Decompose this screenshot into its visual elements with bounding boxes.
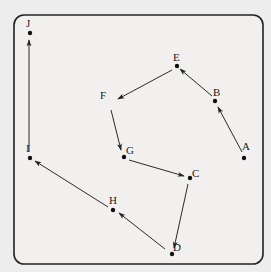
node-label: J [26, 17, 31, 29]
node-f: F [100, 89, 106, 101]
node-dot [175, 64, 179, 68]
node-label: D [173, 241, 181, 253]
node-dot [213, 99, 217, 103]
node-label: E [173, 51, 180, 63]
node-label: C [192, 167, 199, 179]
node-dot [242, 156, 246, 160]
node-label: F [100, 89, 106, 101]
node-dot [111, 208, 115, 212]
node-label: H [109, 194, 117, 206]
path-diagram: ABEFGCDHIJ [0, 0, 271, 272]
node-label: A [242, 140, 250, 152]
node-dot [28, 31, 32, 35]
node-label: I [26, 142, 30, 154]
node-dot [28, 156, 32, 160]
diagram-stage: ABEFGCDHIJ [0, 0, 271, 272]
node-label: B [213, 86, 220, 98]
diagram-frame [14, 15, 263, 264]
node-label: G [126, 144, 134, 156]
